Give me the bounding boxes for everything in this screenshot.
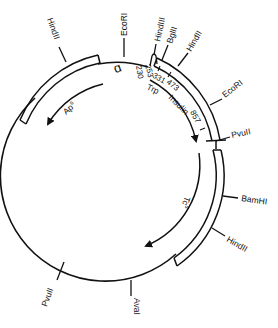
insert-region-box: [154, 58, 226, 149]
plasmid-backbone: [0, 62, 176, 281]
gene-label-ap: Aps: [60, 99, 77, 116]
site-label: HindII: [225, 234, 249, 254]
gene-labels: Aps Trp Insulin Tcs: [60, 82, 193, 210]
site-label: PvuII: [39, 286, 55, 308]
site-label: AvaI: [132, 298, 142, 315]
site-label: HindII: [184, 29, 204, 53]
ap-arrow: [48, 84, 103, 124]
site-label: EcoRI: [220, 77, 244, 99]
site-label: EcoRI: [119, 13, 129, 36]
site-label: PvuII: [230, 126, 251, 140]
site-label: BglII: [164, 25, 179, 44]
coordinate-labels: 230 253 331 473 857: [134, 63, 203, 125]
plasmid-diagram: ɑ HindII EcoRI HindIII BglII HindII EcoR…: [0, 0, 278, 328]
site-label: BamHI: [241, 193, 268, 207]
gene-label-trp: Trp: [145, 82, 161, 96]
gene-label-tc: Tcs: [179, 195, 193, 210]
tc-region-box: [174, 150, 224, 266]
site-label: HindII: [45, 16, 62, 40]
coordinate-label: 473: [165, 77, 181, 93]
gene-label-insulin: Insulin: [167, 92, 192, 117]
